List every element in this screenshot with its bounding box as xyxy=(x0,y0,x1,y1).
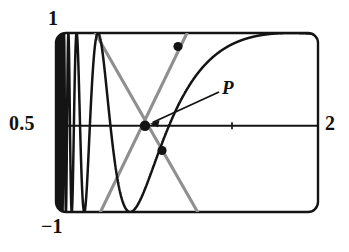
y-value-label: 0.5 xyxy=(9,113,35,133)
point-lower-marker xyxy=(157,146,166,155)
point-p-label: P xyxy=(222,78,234,97)
point-upper-marker xyxy=(173,42,182,51)
point-P-marker xyxy=(140,121,150,131)
y-max-label: 1 xyxy=(48,8,58,28)
y-min-label: −1 xyxy=(41,216,63,236)
x-max-label: 2 xyxy=(325,113,335,133)
